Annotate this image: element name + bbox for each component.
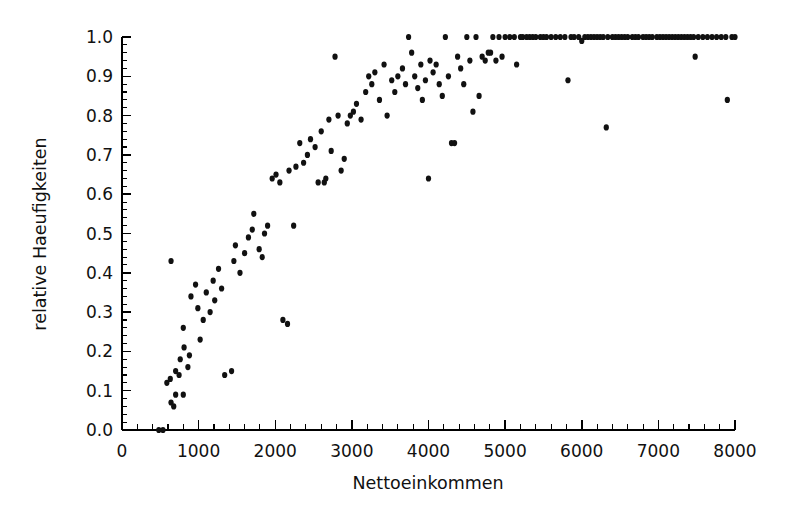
data-point (605, 34, 610, 40)
data-point (246, 234, 251, 240)
data-point (691, 34, 696, 40)
data-point (345, 120, 350, 126)
y-axis-tick-labels: 0.00.10.20.30.40.50.60.70.80.91.0 (86, 27, 113, 440)
data-point (187, 352, 192, 358)
data-point (342, 156, 347, 162)
data-point (273, 171, 278, 177)
data-point (369, 81, 374, 87)
data-point (719, 34, 724, 40)
data-point (366, 73, 371, 79)
data-point (461, 81, 466, 87)
data-point (400, 65, 405, 71)
x-tick-label: 3000 (330, 441, 373, 461)
data-point (291, 223, 296, 229)
data-point (257, 246, 262, 252)
data-point (443, 34, 448, 40)
y-tick-label: 0.5 (86, 224, 113, 244)
y-tick-label: 0.2 (86, 341, 113, 361)
x-axis-ticks (122, 420, 735, 430)
y-tick-label: 0.7 (86, 145, 113, 165)
data-point (426, 175, 431, 181)
data-point (696, 34, 701, 40)
data-point (493, 57, 498, 63)
data-point (219, 285, 224, 291)
data-point (464, 34, 469, 40)
data-point (222, 372, 227, 378)
data-point (423, 77, 428, 83)
data-point (168, 376, 173, 382)
data-point (185, 364, 190, 370)
data-point (297, 140, 302, 146)
data-point (488, 50, 493, 56)
data-point (709, 34, 714, 40)
x-axis-title: Nettoeinkommen (352, 473, 503, 493)
data-point (496, 34, 501, 40)
data-point (250, 226, 255, 232)
data-point (372, 69, 377, 75)
data-point (312, 144, 317, 150)
data-point (601, 34, 606, 40)
data-point (714, 34, 719, 40)
data-point (420, 97, 425, 103)
data-point (693, 54, 698, 60)
data-point (476, 93, 481, 99)
data-point (434, 61, 439, 67)
y-tick-label: 0.0 (86, 420, 113, 440)
data-point (181, 344, 186, 350)
data-point (418, 61, 423, 67)
data-point (544, 34, 549, 40)
data-point (415, 85, 420, 91)
data-point (207, 309, 212, 315)
x-tick-label: 5000 (483, 441, 526, 461)
x-tick-label: 6000 (560, 441, 603, 461)
data-point (389, 77, 394, 83)
data-point (181, 325, 186, 331)
data-point (392, 89, 397, 95)
data-point (723, 34, 728, 40)
data-point (332, 54, 337, 60)
data-point (204, 289, 209, 295)
x-tick-label: 1000 (177, 441, 220, 461)
data-point (548, 34, 553, 40)
data-point (732, 34, 737, 40)
data-point (604, 124, 609, 130)
data-point (473, 34, 478, 40)
data-point (326, 116, 331, 122)
data-point (725, 97, 730, 103)
data-point (216, 266, 221, 272)
data-point (503, 34, 508, 40)
data-point (377, 97, 382, 103)
data-point (558, 34, 563, 40)
data-point (229, 368, 234, 374)
data-point (625, 34, 630, 40)
data-point (285, 321, 290, 327)
data-point (160, 427, 165, 433)
data-point (553, 34, 558, 40)
data-point (262, 230, 267, 236)
data-point (251, 211, 256, 217)
data-point (286, 168, 291, 174)
data-point (403, 81, 408, 87)
data-point (533, 34, 538, 40)
data-point (301, 160, 306, 166)
data-point (700, 34, 705, 40)
data-point (499, 54, 504, 60)
data-point (427, 57, 432, 63)
x-axis-tick-labels: 010002000300040005000600070008000 (117, 441, 757, 461)
data-point (467, 57, 472, 63)
y-tick-label: 0.6 (86, 184, 113, 204)
x-tick-label: 8000 (713, 441, 756, 461)
data-point (198, 337, 203, 343)
data-point (211, 278, 216, 284)
data-point (381, 61, 386, 67)
data-point (181, 392, 186, 398)
data-point (193, 281, 198, 287)
data-point (188, 293, 193, 299)
data-point (514, 61, 519, 67)
x-tick-label: 0 (117, 441, 128, 461)
data-point (201, 317, 206, 323)
data-point (512, 34, 517, 40)
data-point (507, 34, 512, 40)
data-point (242, 250, 247, 256)
data-point (354, 101, 359, 107)
